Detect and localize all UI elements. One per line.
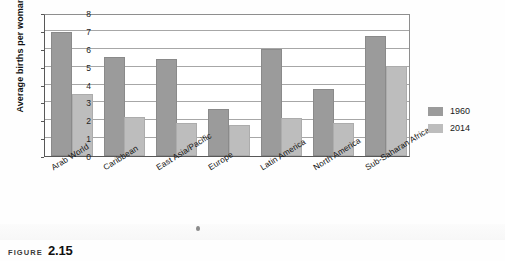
legend-item-1960: 1960 <box>428 106 500 117</box>
y-axis-tick-mark <box>41 86 44 87</box>
figure-caption: FIGURE 2.15 <box>8 243 72 258</box>
bar-2014-europe <box>229 125 250 156</box>
figure-caption-kicker: FIGURE <box>8 248 43 257</box>
bar-1960-latin-america <box>261 49 282 156</box>
chart-legend: 1960 2014 <box>428 106 500 140</box>
bar-1960-europe <box>208 109 229 156</box>
page-scan-artifact <box>0 224 505 240</box>
y-axis-tick-mark <box>41 32 44 33</box>
y-axis-tick-label: 7 <box>69 28 91 37</box>
bar-1960-north-america <box>313 89 334 156</box>
bar-1960-sub-saharan-africa <box>365 36 386 156</box>
y-axis-title: Average births per woman <box>15 0 25 130</box>
gridline <box>45 30 409 31</box>
gridline <box>45 84 409 85</box>
figure-container: Average births per woman 012345678 Arab … <box>0 0 505 261</box>
y-axis-tick-mark <box>41 68 44 69</box>
y-axis-tick-label: 5 <box>69 64 91 73</box>
legend-label-1960: 1960 <box>450 107 470 116</box>
y-axis-tick-mark <box>41 103 44 104</box>
scan-speck <box>196 226 200 231</box>
y-axis-tick-mark <box>41 121 44 122</box>
gridline <box>45 66 409 67</box>
gridline <box>45 48 409 49</box>
bar-chart: Average births per woman 012345678 Arab … <box>0 0 505 222</box>
y-axis-tick-label: 8 <box>69 10 91 19</box>
y-axis-tick-mark <box>41 50 44 51</box>
legend-label-2014: 2014 <box>450 124 470 133</box>
y-axis-tick-mark <box>41 139 44 140</box>
y-axis-tick-label: 3 <box>69 99 91 108</box>
legend-item-2014: 2014 <box>428 123 500 134</box>
gridline <box>45 101 409 102</box>
bar-1960-east-asia-pacific <box>156 59 177 156</box>
figure-caption-number: 2.15 <box>48 243 73 258</box>
legend-swatch-2014 <box>428 124 443 133</box>
y-axis-tick-label: 2 <box>69 117 91 126</box>
bar-1960-caribbean <box>104 57 125 156</box>
y-axis-tick-label: 4 <box>69 82 91 91</box>
y-axis-tick-label: 6 <box>69 46 91 55</box>
legend-swatch-1960 <box>428 107 443 116</box>
y-axis-tick-mark <box>41 157 44 158</box>
y-axis-tick-mark <box>41 14 44 15</box>
y-axis-tick-label: 1 <box>69 135 91 144</box>
